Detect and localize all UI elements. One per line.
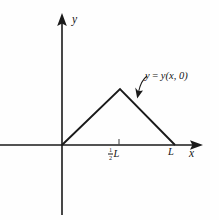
- x-tick-label-L: L: [168, 147, 174, 158]
- curve-annotation-rhs: y(x, 0): [161, 70, 188, 81]
- fraction-denominator: 2: [109, 155, 112, 161]
- fraction-one-half: 1 2: [108, 147, 113, 161]
- y-axis-label: y: [72, 14, 77, 26]
- x-tick-label-half-L: 1 2 L: [108, 147, 119, 161]
- x-tick-label-half-L-symbol: L: [114, 149, 120, 160]
- figure-drawing: [0, 0, 219, 220]
- curve-annotation-equals: =: [150, 70, 161, 81]
- x-axis-label: x: [189, 148, 194, 160]
- y-axis-group: [57, 13, 67, 215]
- curve-annotation-label: y = y(x, 0): [145, 71, 188, 82]
- triangular-pulse-curve: [62, 89, 175, 145]
- figure-container: y x 1 2 L L y = y(x, 0): [0, 0, 219, 220]
- fraction-numerator: 1: [109, 147, 112, 153]
